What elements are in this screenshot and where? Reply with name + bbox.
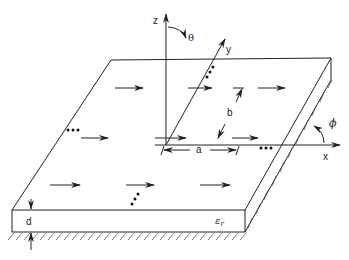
ellipsis-dots [67, 66, 273, 206]
spacing-b-label: b [227, 107, 233, 118]
ground-plane-hatching [8, 80, 332, 240]
permittivity-label: εr [215, 215, 224, 228]
slab-front-face [12, 210, 245, 232]
z-axis [166, 14, 186, 145]
phi-label: ϕ [329, 117, 337, 130]
z-axis-label: z [153, 15, 158, 26]
slab-top-face [12, 58, 331, 210]
y-axis-label: y [226, 44, 231, 55]
spacing-a-label: a [196, 144, 202, 155]
y-axis [166, 39, 225, 145]
x-axis-label: x [323, 151, 328, 162]
theta-label: θ [188, 32, 194, 43]
dipole-elements [50, 88, 285, 185]
thickness-label: d [26, 216, 32, 227]
diagram-figure: d εr z θ y x ϕ a b [0, 0, 349, 260]
slab-diagram: d εr z θ y x ϕ a b [0, 0, 349, 260]
phi-arc [314, 126, 324, 143]
